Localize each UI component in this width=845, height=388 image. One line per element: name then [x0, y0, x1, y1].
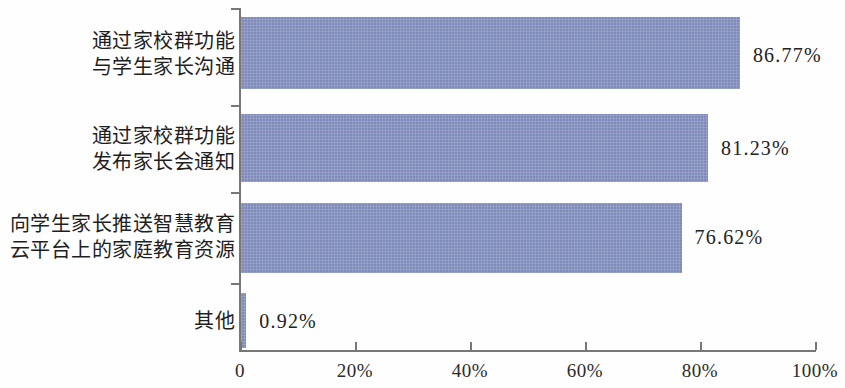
y-axis-tick	[231, 283, 239, 285]
bar-series-item	[241, 114, 708, 182]
category-label: 向学生家长推送智慧教育 云平台上的家庭教育资源	[10, 211, 242, 264]
x-axis-tick-label: 100%	[792, 360, 838, 382]
x-axis-tick	[355, 342, 357, 350]
bar-value-label: 86.77%	[753, 44, 822, 67]
x-axis-tick	[585, 342, 587, 350]
bar-value-label: 0.92%	[259, 310, 317, 333]
x-axis-tick	[700, 342, 702, 350]
x-axis-tick-label: 20%	[337, 360, 373, 382]
bar-series-item	[241, 293, 246, 348]
x-axis-tick	[470, 342, 472, 350]
x-axis-tick-label: 60%	[567, 360, 603, 382]
category-label: 通过家校群功能 与学生家长沟通	[92, 28, 242, 81]
y-axis-tick	[231, 8, 239, 10]
bar-series-item	[241, 203, 682, 273]
x-axis-tick-label: 80%	[682, 360, 718, 382]
x-axis-line	[239, 350, 816, 352]
y-axis-tick	[231, 192, 239, 194]
bar-value-label: 81.23%	[721, 137, 790, 160]
x-axis-tick-label: 40%	[452, 360, 488, 382]
bar-value-label: 76.62%	[695, 226, 764, 249]
category-label: 通过家校群功能 发布家长会通知	[92, 123, 242, 176]
x-axis-tick-label: 0	[235, 360, 245, 382]
category-label: 其他	[194, 308, 241, 334]
bar-chart-figure: 通过家校群功能 与学生家长沟通 通过家校群功能 发布家长会通知 向学生家长推送智…	[0, 0, 845, 388]
x-axis-tick	[240, 342, 242, 350]
x-axis-tick	[815, 342, 817, 350]
bar-series-item	[241, 17, 740, 89]
y-axis-tick	[231, 105, 239, 107]
